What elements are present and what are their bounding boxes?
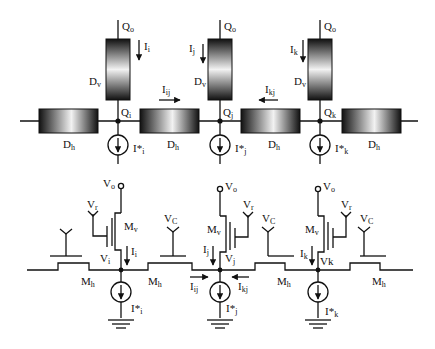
svg-text:Ii: Ii — [131, 245, 138, 259]
svg-text:Ikj: Ikj — [265, 83, 275, 97]
bottom-transistor-network — [27, 186, 413, 328]
svg-text:Iij: Iij — [190, 280, 198, 294]
svg-text:Qo: Qo — [324, 20, 336, 34]
svg-text:Dh: Dh — [63, 138, 75, 152]
svg-text:I*j: I*j — [235, 142, 246, 156]
svg-text:Dh: Dh — [268, 138, 280, 152]
svg-text:Dh: Dh — [368, 138, 380, 152]
svg-text:Dv: Dv — [294, 75, 306, 89]
svg-text:Mh: Mh — [81, 275, 95, 289]
svg-text:I*i: I*i — [131, 302, 143, 316]
svg-text:Ij: Ij — [189, 42, 195, 56]
svg-text:Qo: Qo — [224, 20, 236, 34]
svg-text:Vo: Vo — [323, 180, 335, 194]
svg-text:Vi: Vi — [100, 252, 111, 266]
supply-terminal-icon-k — [315, 186, 320, 191]
svg-text:Ik: Ik — [300, 247, 308, 261]
svg-text:VC: VC — [164, 212, 177, 226]
svg-text:Dv: Dv — [194, 75, 206, 89]
svg-text:Ij: Ij — [203, 243, 209, 257]
svg-text:Vr: Vr — [243, 198, 254, 212]
supply-terminal-icon-j — [217, 186, 222, 191]
svg-text:Dh: Dh — [167, 138, 179, 152]
svg-text:Iij: Iij — [162, 83, 170, 97]
svg-text:Vo: Vo — [225, 180, 237, 194]
svg-text:Vk: Vk — [320, 255, 334, 267]
svg-text:Qj: Qj — [223, 106, 233, 120]
svg-text:Vj: Vj — [225, 252, 235, 266]
svg-text:I*i: I*i — [133, 142, 145, 156]
svg-text:Ii: Ii — [144, 40, 151, 54]
node-dot-k — [317, 118, 322, 123]
svg-text:Dv: Dv — [89, 75, 101, 89]
svg-text:Vo: Vo — [103, 177, 115, 191]
svg-text:Mh: Mh — [372, 275, 386, 289]
svg-text:Ikj: Ikj — [238, 280, 248, 294]
svg-text:I*k: I*k — [335, 142, 348, 156]
svg-text:Mv: Mv — [124, 220, 138, 234]
dh-block-2 — [140, 109, 199, 133]
svg-text:Vr: Vr — [87, 198, 98, 212]
svg-text:I*k: I*k — [325, 305, 338, 319]
dv-block-j — [208, 39, 232, 100]
dv-block-i — [106, 39, 130, 100]
svg-text:Mv: Mv — [305, 223, 319, 237]
dv-block-k — [308, 39, 332, 100]
dh-block-4 — [342, 109, 401, 133]
svg-text:Qk: Qk — [324, 106, 336, 120]
svg-text:Ik: Ik — [290, 43, 298, 57]
svg-text:Mh: Mh — [148, 275, 162, 289]
svg-text:Vr: Vr — [341, 198, 352, 212]
dh-block-3 — [241, 109, 300, 133]
supply-terminal-icon-i — [118, 183, 123, 188]
node-dot-i — [115, 118, 120, 123]
svg-text:VC: VC — [262, 212, 275, 226]
svg-text:Mh: Mh — [277, 275, 291, 289]
svg-text:VC: VC — [360, 212, 373, 226]
dh-block-1 — [39, 109, 98, 133]
svg-text:Mv: Mv — [207, 223, 221, 237]
svg-text:I*j: I*j — [226, 302, 237, 316]
svg-text:Qi: Qi — [121, 106, 132, 120]
node-dot-j — [217, 118, 222, 123]
circuit-diagram: Qo Qo Qo Ii Ij Ik Dv Dv Dv Iij Ikj Qi Qj… — [0, 0, 435, 349]
svg-text:Qo: Qo — [122, 20, 134, 34]
